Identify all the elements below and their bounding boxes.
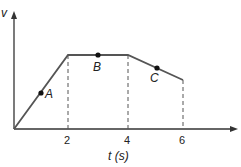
point-a bbox=[38, 90, 43, 95]
tick-2: 2 bbox=[64, 134, 70, 146]
point-c bbox=[154, 65, 159, 70]
tick-6: 6 bbox=[179, 134, 185, 146]
label-a: A bbox=[44, 87, 53, 101]
label-b: B bbox=[93, 60, 101, 74]
point-b bbox=[95, 52, 100, 57]
label-c: C bbox=[150, 71, 159, 85]
y-axis-label: v bbox=[1, 6, 8, 20]
x-axis-arrow-icon bbox=[230, 126, 238, 132]
x-axis-label: t (s) bbox=[108, 149, 129, 163]
velocity-time-graph: A B C v 2 4 6 t (s) bbox=[0, 0, 241, 167]
tick-4: 4 bbox=[124, 134, 130, 146]
y-axis-arrow-icon bbox=[11, 11, 17, 19]
